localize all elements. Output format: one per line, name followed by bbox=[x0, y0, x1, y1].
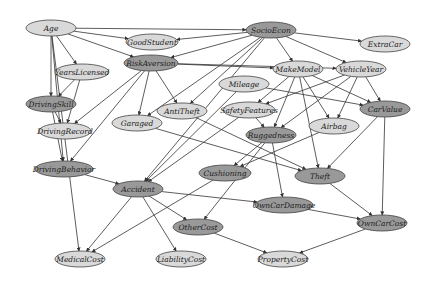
edge-owncarcost-to-propertycost bbox=[300, 229, 366, 253]
node-label: DrivingRecord bbox=[36, 127, 93, 136]
node-ruggedness: Ruggedness bbox=[246, 127, 296, 143]
node-label: LiabilityCost bbox=[156, 255, 206, 264]
edge-ruggedness-to-cushioning bbox=[234, 142, 262, 165]
edge-mileage-to-carvalue bbox=[266, 88, 363, 105]
node-yearslicensed: YearsLicensed bbox=[55, 64, 110, 80]
edge-socioecon-to-goodstudent bbox=[177, 32, 247, 39]
edges-layer bbox=[51, 28, 385, 253]
node-label: GoodStudent bbox=[127, 38, 178, 47]
edge-age-to-goodstudent bbox=[74, 31, 128, 39]
node-label: OwnCarDamage bbox=[253, 201, 316, 210]
node-label: Ruggedness bbox=[247, 131, 294, 140]
edge-socioecon-to-vehicleyear bbox=[286, 36, 346, 62]
node-owncardamage: OwnCarDamage bbox=[253, 197, 316, 213]
edge-drivingbehavior-to-accident bbox=[85, 175, 119, 184]
node-label: MedicalCost bbox=[55, 255, 104, 264]
nodes-layer: AgeSocioEconGoodStudentExtraCarRiskAvers… bbox=[26, 20, 410, 267]
node-label: YearsLicensed bbox=[55, 68, 110, 77]
node-socioecon: SocioEcon bbox=[246, 22, 296, 38]
edge-socioecon-to-extracar bbox=[294, 33, 361, 41]
node-antitheft: AntiTheft bbox=[157, 103, 207, 119]
node-vehicleyear: VehicleYear bbox=[336, 61, 386, 77]
edge-age-to-yearslicensed bbox=[56, 36, 76, 64]
node-label: OwnCarCost bbox=[358, 219, 407, 228]
node-airbag: Airbag bbox=[309, 118, 359, 134]
bayesian-network-diagram: AgeSocioEconGoodStudentExtraCarRiskAvers… bbox=[0, 0, 438, 286]
node-label: Theft bbox=[310, 172, 331, 181]
edge-othercost-to-propertycost bbox=[214, 233, 267, 253]
node-label: RiskAversion bbox=[125, 59, 176, 68]
edge-owncardamage-to-owncarcost bbox=[308, 209, 360, 219]
node-carvalue: CarValue bbox=[360, 101, 410, 117]
edge-age-to-socioecon bbox=[76, 28, 246, 30]
node-label: DrivingBehavior bbox=[32, 165, 96, 174]
node-garaged: Garaged bbox=[112, 115, 162, 131]
node-goodstudent: GoodStudent bbox=[126, 34, 178, 50]
node-liabilitycost: LiabilityCost bbox=[156, 251, 206, 267]
node-drivingrecord: DrivingRecord bbox=[36, 123, 93, 139]
node-label: Airbag bbox=[320, 122, 347, 131]
node-label: Mileage bbox=[228, 80, 260, 89]
edge-accident-to-owncardamage bbox=[162, 192, 257, 202]
edge-vehicleyear-to-carvalue bbox=[366, 77, 381, 101]
edge-socioecon-to-antitheft bbox=[190, 38, 262, 104]
node-cushioning: Cushioning bbox=[199, 165, 251, 181]
node-label: MakeModel bbox=[275, 65, 322, 74]
node-othercost: OtherCost bbox=[173, 219, 223, 235]
node-age: Age bbox=[26, 20, 76, 36]
node-extracar: ExtraCar bbox=[360, 36, 410, 52]
node-accident: Accident bbox=[113, 181, 163, 197]
edge-ruggedness-to-owncardamage bbox=[272, 143, 282, 197]
node-label: CarValue bbox=[368, 105, 403, 114]
node-theft: Theft bbox=[295, 168, 345, 184]
node-drivingbehavior: DrivingBehavior bbox=[32, 161, 96, 177]
edge-riskaversion-to-antitheft bbox=[156, 71, 177, 103]
edge-age-to-riskaversion bbox=[68, 34, 134, 57]
node-label: Accident bbox=[120, 185, 155, 194]
node-riskaversion: RiskAversion bbox=[124, 55, 178, 71]
edge-yearslicensed-to-drivingskill bbox=[58, 80, 74, 97]
node-mileage: Mileage bbox=[219, 76, 269, 92]
node-label: DrivingSkill bbox=[27, 100, 74, 109]
node-medicalcost: MedicalCost bbox=[55, 251, 105, 267]
edge-accident-to-medicalcost bbox=[86, 197, 131, 252]
edge-theft-to-owncarcost bbox=[330, 183, 373, 215]
edge-drivingskill-to-drivingrecord bbox=[55, 112, 61, 123]
edge-carvalue-to-owncarcost bbox=[382, 117, 385, 215]
node-label: PropertyCost bbox=[257, 255, 309, 264]
edge-riskaversion-to-garaged bbox=[139, 71, 149, 115]
node-label: AntiTheft bbox=[163, 107, 201, 116]
node-makemodel: MakeModel bbox=[273, 61, 323, 77]
node-label: SocioEcon bbox=[251, 26, 291, 35]
node-label: VehicleYear bbox=[339, 65, 384, 74]
node-propertycost: PropertyCost bbox=[257, 251, 309, 267]
node-label: Cushioning bbox=[203, 169, 246, 178]
edge-vehicleyear-to-airbag bbox=[338, 77, 358, 118]
node-safetyfeatures: SafetyFeatures bbox=[220, 102, 278, 118]
node-owncarcost: OwnCarCost bbox=[357, 215, 407, 231]
node-label: SafetyFeatures bbox=[220, 106, 278, 115]
node-label: Garaged bbox=[121, 119, 154, 128]
node-label: Age bbox=[43, 24, 59, 33]
node-drivingskill: DrivingSkill bbox=[26, 96, 76, 112]
node-label: ExtraCar bbox=[367, 40, 403, 49]
edge-socioecon-to-makemodel bbox=[276, 38, 292, 61]
edge-safetyfeatures-to-ruggedness bbox=[256, 118, 264, 128]
node-label: OtherCost bbox=[178, 223, 218, 232]
